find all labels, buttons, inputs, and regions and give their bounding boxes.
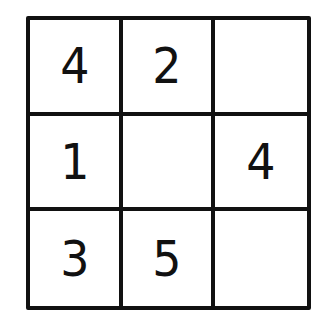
cell-r2-c3[interactable]: 4 bbox=[215, 116, 307, 211]
cell-r1-c3[interactable] bbox=[215, 20, 307, 116]
cell-value: 5 bbox=[152, 234, 181, 284]
cell-value: 3 bbox=[60, 234, 89, 284]
cell-r3-c3[interactable] bbox=[215, 211, 307, 306]
cell-value: 4 bbox=[246, 137, 275, 187]
cell-r1-c2[interactable]: 2 bbox=[123, 20, 215, 116]
cell-r3-c1[interactable]: 3 bbox=[30, 211, 123, 306]
cell-value: 4 bbox=[60, 41, 89, 91]
cell-value: 2 bbox=[152, 41, 181, 91]
cell-value: 1 bbox=[60, 137, 89, 187]
cell-r1-c1[interactable]: 4 bbox=[30, 20, 123, 116]
cell-r2-c2[interactable] bbox=[123, 116, 215, 211]
cell-r3-c2[interactable]: 5 bbox=[123, 211, 215, 306]
cell-r2-c1[interactable]: 1 bbox=[30, 116, 123, 211]
puzzle-grid: 4 2 1 4 3 5 bbox=[26, 16, 311, 310]
